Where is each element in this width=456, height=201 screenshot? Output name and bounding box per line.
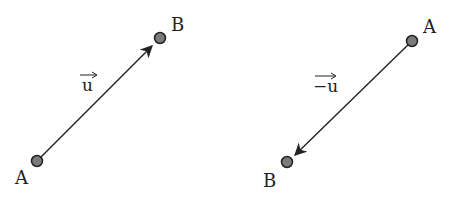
vector-u-line xyxy=(37,46,152,161)
vector-neg-u-line xyxy=(295,41,412,155)
vector-label-u: u xyxy=(80,72,97,95)
label-b-right: A xyxy=(422,16,437,37)
label-a-left: A xyxy=(14,167,29,188)
vector-label-neg-u: −u xyxy=(313,73,338,96)
point-a-left xyxy=(32,156,43,167)
vector-u-text: u xyxy=(82,75,93,95)
point-b-left xyxy=(155,33,166,44)
label-b-left: B xyxy=(171,14,184,35)
point-b-right xyxy=(407,36,418,47)
panel-vector-u: A B u xyxy=(14,14,184,188)
vector-diagram: A B u B A −u xyxy=(0,0,456,201)
panel-vector-neg-u: B A −u xyxy=(263,16,437,191)
vector-neg-u-text: −u xyxy=(313,76,338,96)
point-a-right xyxy=(282,157,293,168)
label-a-right: B xyxy=(263,170,276,191)
